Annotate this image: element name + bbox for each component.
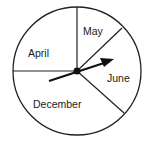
spinner-diagram: May April June December [0,0,149,142]
section-label-april: April [28,47,49,59]
section-label-may: May [83,25,104,37]
section-label-june: June [107,72,130,84]
spinner-pivot [74,68,81,75]
section-label-december: December [33,98,82,110]
spinner-arrow-head-icon [100,58,114,67]
